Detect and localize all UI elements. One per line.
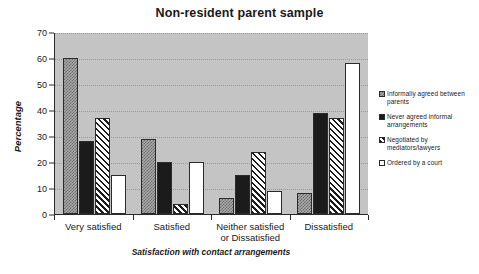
bar-group xyxy=(133,33,211,214)
y-axis-tick-label: 10 xyxy=(37,184,47,194)
x-axis-tick-mark xyxy=(368,215,369,220)
x-axis-title: Satisfaction with contact arrangements xyxy=(54,247,368,257)
bar xyxy=(111,175,126,214)
bar-group xyxy=(55,33,133,214)
bar xyxy=(251,152,266,214)
x-axis-category-label: Very satisfied xyxy=(54,221,133,243)
legend-label: Negotiated by mediators/lawyers xyxy=(387,136,477,152)
y-axis-tick-label: 30 xyxy=(37,132,47,142)
legend-item: Informally agreed between parents xyxy=(379,90,477,106)
y-axis-tick-label: 0 xyxy=(42,210,47,220)
bar xyxy=(235,175,250,214)
bar-chart: Non-resident parent sample Percentage 01… xyxy=(0,0,479,274)
bar xyxy=(173,204,188,214)
x-axis-labels: Very satisfiedSatisfiedNeither satisfied… xyxy=(54,221,368,243)
bar xyxy=(297,193,312,214)
bar-group xyxy=(212,33,290,214)
legend-swatch-icon xyxy=(379,137,385,143)
x-axis-category-label: Satisfied xyxy=(133,221,212,243)
y-axis-title: Percentage xyxy=(12,72,23,182)
x-axis-category-label: Dissatisfied xyxy=(290,221,369,243)
bar xyxy=(219,198,234,214)
bar xyxy=(267,191,282,214)
x-axis-tick-mark xyxy=(54,215,55,220)
legend-label: Never agreed informal arrangements xyxy=(387,113,477,129)
bar-groups xyxy=(55,33,368,214)
legend-label: Informally agreed between parents xyxy=(387,90,477,106)
bar-group xyxy=(290,33,368,214)
y-axis-tick-label: 40 xyxy=(37,106,47,116)
bar xyxy=(63,58,78,214)
legend-swatch-icon xyxy=(379,91,385,97)
y-axis-tick-label: 20 xyxy=(37,158,47,168)
y-axis-tick-label: 70 xyxy=(37,28,47,38)
y-axis: Percentage 010203040506070 xyxy=(0,33,54,215)
legend-item: Negotiated by mediators/lawyers xyxy=(379,136,477,152)
chart-title: Non-resident parent sample xyxy=(0,6,479,20)
legend-label: Ordered by a court xyxy=(387,159,442,167)
x-axis-ticks xyxy=(54,215,368,220)
legend-item: Ordered by a court xyxy=(379,159,477,167)
x-axis-category-label: Neither satisfied or Dissatisfied xyxy=(211,221,290,243)
y-axis-tick-label: 50 xyxy=(37,80,47,90)
legend-swatch-icon xyxy=(379,160,385,166)
bar xyxy=(157,162,172,214)
x-axis-tick-mark xyxy=(133,215,134,220)
bar xyxy=(79,141,94,214)
bar xyxy=(345,63,360,214)
bar xyxy=(313,113,328,214)
bar xyxy=(95,118,110,214)
chart-legend: Informally agreed between parentsNever a… xyxy=(379,90,477,174)
legend-item: Never agreed informal arrangements xyxy=(379,113,477,129)
x-axis-tick-mark xyxy=(290,215,291,220)
x-axis-tick-mark xyxy=(211,215,212,220)
bar xyxy=(141,139,156,214)
bar xyxy=(189,162,204,214)
bar xyxy=(329,118,344,214)
plot-area xyxy=(54,33,368,215)
y-axis-tick-label: 60 xyxy=(37,54,47,64)
legend-swatch-icon xyxy=(379,114,385,120)
